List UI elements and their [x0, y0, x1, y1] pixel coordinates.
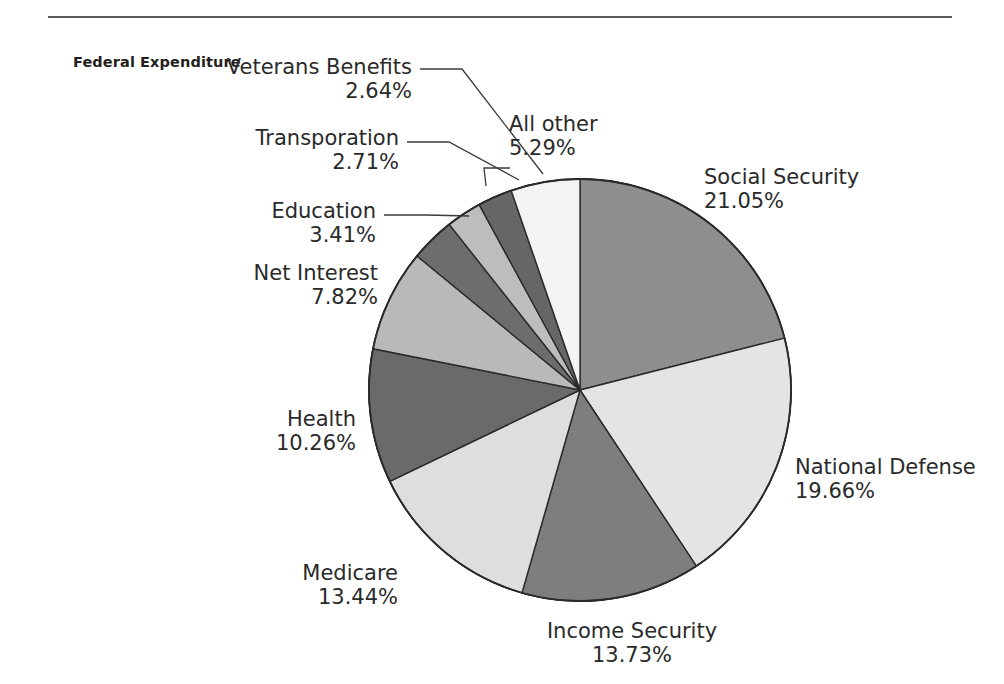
- label-income-security-name: Income Security: [518, 620, 746, 644]
- label-national-defense-value: 19.66%: [795, 480, 976, 504]
- label-veterans-benefits-value: 2.64%: [122, 80, 412, 104]
- label-national-defense: National Defense 19.66%: [795, 456, 976, 504]
- label-veterans-benefits: Veterans Benefits 2.64%: [122, 56, 412, 104]
- leader-line-all-other: [484, 168, 510, 186]
- label-transporation: Transporation 2.71%: [140, 127, 399, 175]
- label-social-security-value: 21.05%: [704, 190, 859, 214]
- label-social-security: Social Security 21.05%: [704, 166, 859, 214]
- leader-line-education: [384, 215, 469, 216]
- label-transporation-name: Transporation: [140, 127, 399, 151]
- label-health-name: Health: [160, 408, 356, 432]
- leader-line-transporation: [407, 142, 519, 180]
- label-education-value: 3.41%: [148, 224, 376, 248]
- label-veterans-benefits-name: Veterans Benefits: [122, 56, 412, 80]
- label-medicare-name: Medicare: [206, 562, 398, 586]
- label-national-defense-name: National Defense: [795, 456, 976, 480]
- label-all-other: All other 5.29%: [509, 113, 598, 161]
- label-all-other-value: 5.29%: [509, 137, 598, 161]
- label-income-security: Income Security 13.73%: [518, 620, 746, 668]
- label-education-name: Education: [148, 200, 376, 224]
- label-medicare-value: 13.44%: [206, 586, 398, 610]
- label-net-interest: Net Interest 7.82%: [140, 262, 378, 310]
- label-medicare: Medicare 13.44%: [206, 562, 398, 610]
- pie-slice-group: [369, 179, 791, 601]
- label-education: Education 3.41%: [148, 200, 376, 248]
- label-health-value: 10.26%: [160, 432, 356, 456]
- label-all-other-name: All other: [509, 113, 598, 137]
- label-net-interest-value: 7.82%: [140, 286, 378, 310]
- label-transporation-value: 2.71%: [140, 151, 399, 175]
- label-income-security-value: 13.73%: [518, 644, 746, 668]
- label-net-interest-name: Net Interest: [140, 262, 378, 286]
- label-health: Health 10.26%: [160, 408, 356, 456]
- label-social-security-name: Social Security: [704, 166, 859, 190]
- chart-page: Federal Expenditure Social Security 21.0…: [0, 0, 1004, 684]
